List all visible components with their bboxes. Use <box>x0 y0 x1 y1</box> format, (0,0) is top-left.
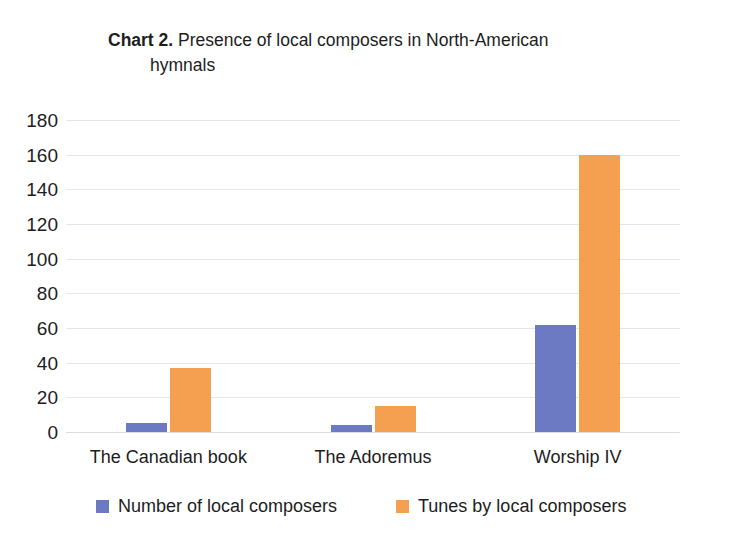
bar[interactable] <box>331 425 372 432</box>
x-axis-tick-label: The Canadian book <box>90 446 247 468</box>
page-bottom-edge <box>0 536 735 554</box>
y-axis-tick-label: 60 <box>0 319 58 338</box>
legend-item[interactable]: Number of local composers <box>96 496 337 516</box>
x-axis-tick-label: Worship IV <box>534 446 622 468</box>
bar[interactable] <box>170 368 211 432</box>
legend-swatch-icon <box>396 500 409 513</box>
bar-group <box>331 120 416 432</box>
y-axis-tick-label: 140 <box>0 180 58 199</box>
legend-label: Number of local composers <box>118 496 337 516</box>
chart-legend: Number of local composersTunes by local … <box>66 496 680 522</box>
y-axis-tick-label: 120 <box>0 215 58 234</box>
chart-container: Chart 2. Presence of local composers in … <box>0 0 735 554</box>
bar[interactable] <box>126 423 167 432</box>
y-axis-labels: 180160140120100806040200 <box>0 120 58 432</box>
plot-area <box>66 120 680 432</box>
x-axis-labels: The Canadian bookThe AdoremusWorship IV <box>66 446 680 474</box>
gridline <box>66 432 680 433</box>
bar-group <box>535 120 620 432</box>
x-axis-tick-label: The Adoremus <box>314 446 431 468</box>
bars-layer <box>66 120 680 432</box>
bar[interactable] <box>535 325 576 432</box>
bar[interactable] <box>579 155 620 432</box>
y-axis-tick-label: 180 <box>0 111 58 130</box>
bar[interactable] <box>375 406 416 432</box>
y-axis-tick-label: 80 <box>0 284 58 303</box>
y-axis-tick-label: 20 <box>0 388 58 407</box>
bar-group <box>126 120 211 432</box>
legend-item[interactable]: Tunes by local composers <box>396 496 626 516</box>
y-axis-tick-label: 100 <box>0 249 58 268</box>
legend-label: Tunes by local composers <box>418 496 626 516</box>
y-axis-tick-label: 160 <box>0 145 58 164</box>
legend-swatch-icon <box>96 500 109 513</box>
chart-title-label: Chart 2. <box>108 30 173 50</box>
y-axis-tick-label: 0 <box>0 423 58 442</box>
chart-title-text: Presence of local composers in North-Ame… <box>173 30 548 50</box>
chart-title: Chart 2. Presence of local composers in … <box>108 28 628 78</box>
y-axis-tick-label: 40 <box>0 353 58 372</box>
chart-title-text-line2: hymnals <box>150 53 628 78</box>
